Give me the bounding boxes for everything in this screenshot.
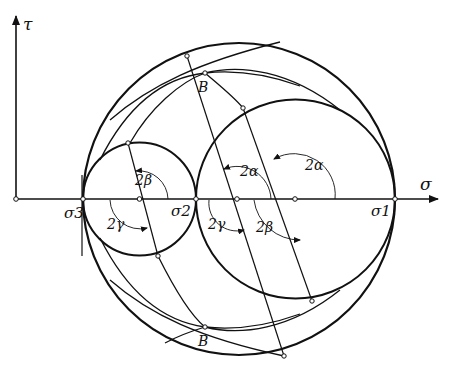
arc-upper-inner	[158, 104, 296, 160]
point-b-upper	[203, 71, 207, 75]
sigma3-point	[81, 197, 86, 202]
angle-2gamma-medium-label: 2γ	[207, 216, 226, 232]
angle-2alpha-right-label: 2α	[304, 157, 324, 173]
small-circle-center-point	[137, 197, 142, 202]
mohr-circle-diagram: τ σ σ3 σ2 σ1 B B 2β 2γ 2α 2α 2γ 2β	[0, 0, 449, 371]
angle-2beta-medium-label: 2β	[255, 219, 273, 235]
axis-point-237	[235, 197, 240, 202]
medium-circle-center-point	[293, 197, 298, 202]
sigma3-label: σ3	[64, 204, 84, 222]
small-circle-bottom-point	[156, 254, 160, 258]
medium-circle-top-point	[241, 106, 245, 110]
angle-2gamma-small-label: 2γ	[106, 216, 125, 232]
point-b-lower-label: B	[197, 333, 208, 349]
sigma1-point	[393, 197, 398, 202]
angle-2alpha-left-label: 2α	[239, 163, 259, 179]
point-b-lower	[203, 325, 207, 329]
sigma1-label: σ1	[371, 202, 391, 220]
arc-upper-5	[205, 73, 243, 108]
tau-axis-label: τ	[23, 14, 33, 34]
angle-2beta-small-label: 2β	[134, 172, 152, 188]
sigma2-point	[194, 197, 199, 202]
large-line-through-sigma2-region	[187, 56, 284, 356]
large-circle-bottom-point	[282, 354, 286, 358]
sigma-axis-label: σ	[420, 174, 432, 194]
small-circle-top-point	[126, 141, 130, 145]
origin-point	[14, 197, 19, 202]
large-circle-top-point	[185, 54, 189, 58]
point-b-upper-label: B	[197, 79, 208, 95]
sigma2-label: σ2	[171, 202, 191, 220]
medium-circle-bottom-point	[310, 299, 314, 303]
medium-circle-diameter	[243, 108, 312, 301]
